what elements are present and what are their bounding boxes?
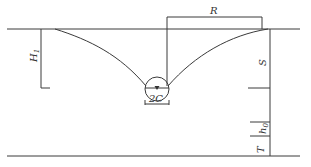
head-label: H1	[28, 49, 41, 63]
svg-text:T: T	[255, 145, 266, 153]
thickness-label: T	[255, 145, 266, 153]
drawdown-label: S	[257, 59, 268, 66]
right-drawdown-curve	[168, 29, 268, 86]
svg-text:S: S	[257, 59, 268, 66]
h0-label: h0	[257, 123, 270, 134]
radius-label: R	[209, 5, 218, 16]
svg-text:H1: H1	[28, 49, 41, 63]
left-drawdown-curve	[55, 29, 146, 86]
svg-text:h0: h0	[257, 123, 270, 134]
well-drawdown-diagram: 2C R H1 S h0 T	[0, 0, 311, 167]
diameter-label: 2C	[148, 93, 163, 104]
